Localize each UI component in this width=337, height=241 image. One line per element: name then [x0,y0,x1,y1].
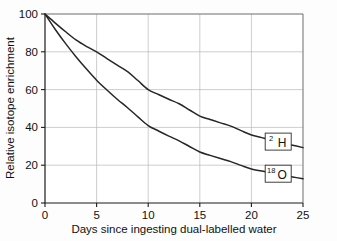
plot-area-background [45,14,303,203]
x-tick-label: 15 [193,209,206,221]
x-tick-marks [45,203,303,207]
x-tick-label: 25 [297,209,310,221]
series-label-18O: 18O [265,165,291,182]
y-axis-title: Relative isotope enrichment [4,36,16,179]
x-tick-label: 10 [142,209,155,221]
x-axis-tick-labels: 0510152025 [42,209,310,221]
y-tick-label: 40 [25,121,38,133]
chart-figure: 020406080100 0510152025 2H18O Days since… [0,0,337,241]
y-tick-label: 60 [25,84,38,96]
isotope-enrichment-line-chart: 020406080100 0510152025 2H18O Days since… [0,0,337,241]
y-tick-label: 80 [25,46,38,58]
series-label-2H: 2H [265,133,291,150]
y-axis-tick-labels: 020406080100 [19,8,38,209]
y-tick-label: 20 [25,159,38,171]
series-label-text: H [278,136,287,150]
series-label-superscript: 2 [269,134,273,143]
series-label-superscript: 18 [267,166,275,175]
y-tick-label: 0 [32,197,38,209]
series-label-text: O [278,168,287,182]
x-tick-label: 5 [93,209,99,221]
y-tick-label: 100 [19,8,38,20]
x-tick-label: 20 [245,209,258,221]
x-tick-label: 0 [42,209,48,221]
x-axis-title: Days since ingesting dual-labelled water [71,223,276,235]
